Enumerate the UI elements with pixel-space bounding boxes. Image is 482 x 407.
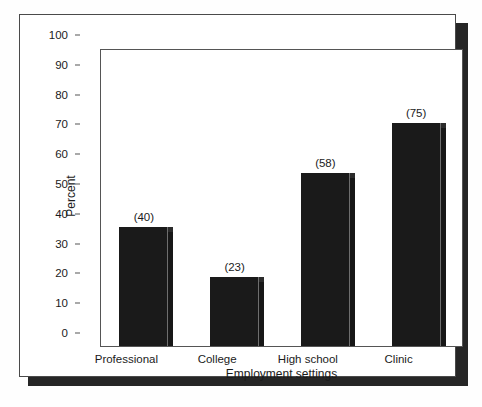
y-tick-label: 20 — [55, 267, 68, 279]
y-tick-mark — [75, 124, 80, 125]
y-tick-mark — [75, 154, 80, 155]
y-tick-mark — [75, 303, 80, 304]
y-tick-mark — [75, 184, 80, 185]
bar-top-face — [168, 227, 173, 232]
chart-figure: Percent 0102030405060708090100 (40)(23)(… — [0, 0, 482, 407]
y-tick-label: 80 — [55, 89, 68, 101]
bar-front-face — [119, 227, 168, 346]
x-tick-label: Professional — [95, 353, 158, 365]
bar-value-label: (58) — [301, 157, 350, 169]
y-tick-mark — [75, 273, 80, 274]
bar-front-face — [392, 123, 441, 347]
bar-top-face — [350, 173, 355, 178]
y-tick-mark — [75, 333, 80, 334]
x-tick-label: Clinic — [385, 353, 413, 365]
bar-side-face — [441, 128, 446, 347]
bar: (40) — [119, 227, 168, 346]
bar: (75) — [392, 123, 441, 347]
bar: (23) — [210, 277, 259, 346]
bar-value-label: (23) — [210, 261, 259, 273]
figure-frame: Percent 0102030405060708090100 (40)(23)(… — [19, 14, 456, 377]
bars-layer: (40)(23)(58)(75) — [101, 50, 462, 346]
y-tick-label: 70 — [55, 118, 68, 130]
y-tick-label: 0 — [62, 327, 68, 339]
bar-value-label: (40) — [119, 211, 168, 223]
y-tick-label: 50 — [55, 178, 68, 190]
y-tick-mark — [75, 94, 80, 95]
y-tick-label: 30 — [55, 238, 68, 250]
bar-top-face — [259, 277, 264, 282]
y-tick-label: 60 — [55, 148, 68, 160]
x-tick-label: High school — [278, 353, 338, 365]
plot-area: (40)(23)(58)(75) — [100, 49, 463, 347]
bar-side-face — [168, 232, 173, 346]
y-tick-mark — [75, 64, 80, 65]
y-tick-mark — [75, 243, 80, 244]
y-tick-label: 90 — [55, 59, 68, 71]
bar-side-face — [350, 178, 355, 346]
bar-top-face — [441, 123, 446, 128]
bar: (58) — [301, 173, 350, 346]
bar-value-label: (75) — [392, 107, 441, 119]
y-tick-label: 100 — [49, 29, 68, 41]
y-tick-label: 10 — [55, 297, 68, 309]
x-axis-title: Employment settings — [100, 367, 463, 381]
y-tick-label: 40 — [55, 208, 68, 220]
x-tick-label: College — [198, 353, 237, 365]
bar-front-face — [301, 173, 350, 346]
y-tick-mark — [75, 213, 80, 214]
bar-front-face — [210, 277, 259, 346]
bar-side-face — [259, 282, 264, 346]
y-tick-mark — [75, 35, 80, 36]
